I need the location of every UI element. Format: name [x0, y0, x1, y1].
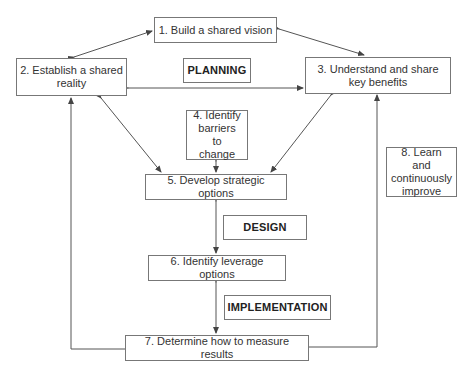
step-1-label: 1. Build a shared vision: [159, 24, 273, 37]
step-4-box: 4. Identify barriers to change: [186, 110, 248, 160]
step-3-label: 3. Understand and share key benefits: [309, 63, 447, 89]
step-2-label: 2. Establish a shared reality: [20, 64, 123, 90]
arrow-3-5: [271, 95, 331, 172]
phase-planning: PLANNING: [183, 58, 251, 83]
step-8-box: 8. Learn and continuously improve: [386, 147, 457, 197]
arrow-2-1: [74, 31, 152, 57]
phase-design-label: DESIGN: [243, 221, 286, 234]
phase-planning-label: PLANNING: [187, 64, 246, 77]
process-diagram: 1. Build a shared vision 2. Establish a …: [0, 0, 471, 375]
feedback-loop-left: [71, 98, 125, 349]
step-7-box: 7. Determine how to measure results: [125, 335, 309, 361]
phase-implementation-label: IMPLEMENTATION: [227, 301, 327, 314]
arrow-2-5: [101, 98, 161, 172]
step-8-label: 8. Learn and continuously improve: [391, 146, 452, 198]
step-4-label: 4. Identify barriers to change: [193, 109, 241, 161]
step-1-box: 1. Build a shared vision: [154, 17, 277, 43]
step-6-label: 6. Identify leverage options: [152, 255, 282, 281]
step-5-label: 5. Develop strategic options: [149, 174, 283, 200]
step-5-box: 5. Develop strategic options: [145, 174, 287, 200]
phase-design: DESIGN: [223, 215, 307, 240]
step-2-box: 2. Establish a shared reality: [16, 58, 127, 96]
arrow-1-3: [279, 29, 364, 55]
step-7-label: 7. Determine how to measure results: [129, 335, 305, 361]
phase-implementation: IMPLEMENTATION: [224, 295, 331, 320]
step-3-box: 3. Understand and share key benefits: [305, 57, 451, 94]
step-6-box: 6. Identify leverage options: [148, 255, 286, 281]
